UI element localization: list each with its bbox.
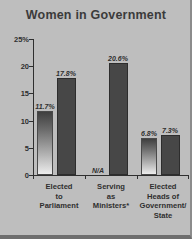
bar-group-serving-as-ministers: N/A 20.6% xyxy=(86,39,138,175)
x-axis-category-labels: ElectedtoParliament ServingasMinisters* … xyxy=(33,182,190,234)
bar-group-elected-heads-of-government: 6.8% 7.3% xyxy=(138,39,190,175)
x-category-label-serving-as-ministers: ServingasMinisters* xyxy=(85,182,137,211)
bar-value-serving-as-ministers-series-2: 20.6% xyxy=(102,55,134,62)
bar-serving-as-ministers-series-2[interactable] xyxy=(109,63,128,175)
bar-elected-to-parliament-series-2[interactable] xyxy=(57,78,76,175)
x-tick-1 xyxy=(85,175,86,179)
x-category-label-elected-heads-of-government: ElectedHeads ofGovernment/State xyxy=(136,182,190,220)
y-tick-label-10: 10 xyxy=(1,117,29,126)
x-axis-line xyxy=(33,175,189,176)
x-tick-end xyxy=(188,175,189,179)
bar-group-elected-to-parliament: 11.7% 17.8% xyxy=(34,39,86,175)
chart-title: Women in Government xyxy=(0,8,192,22)
chart-container: Women in Government 0 5 10 15 20 25% 11.… xyxy=(0,0,192,239)
plot-area: 0 5 10 15 20 25% 11.7% 17.8% N/A xyxy=(0,34,192,179)
y-tick-label-20: 20 xyxy=(1,62,29,71)
bar-value-elected-heads-of-government-series-2: 7.3% xyxy=(154,127,186,134)
bars-layer: 11.7% 17.8% N/A 20.6% 6.8% 7.3% xyxy=(34,39,189,175)
y-tick-label-25: 25% xyxy=(1,35,29,44)
x-category-label-elected-to-parliament: ElectedtoParliament xyxy=(33,182,85,211)
y-tick-label-15: 15 xyxy=(1,89,29,98)
bar-elected-heads-of-government-series-2[interactable] xyxy=(161,135,180,175)
bar-elected-to-parliament-series-1[interactable] xyxy=(37,111,53,175)
x-tick-start xyxy=(33,175,34,179)
y-tick-label-5: 5 xyxy=(1,144,29,153)
bar-elected-heads-of-government-series-1[interactable] xyxy=(141,138,157,175)
x-tick-2 xyxy=(137,175,138,179)
y-tick-label-0: 0 xyxy=(1,171,29,180)
bar-value-elected-to-parliament-series-2: 17.8% xyxy=(50,70,82,77)
